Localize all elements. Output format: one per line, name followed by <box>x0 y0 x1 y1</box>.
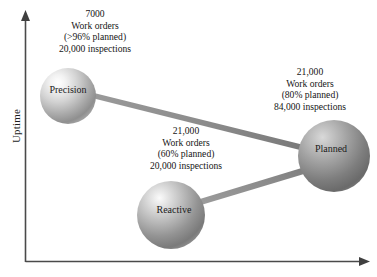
bubble-label-reactive: Reactive <box>143 204 205 216</box>
callout-planned-line-3: (80% planned) <box>246 89 374 101</box>
callout-planned-line-1: 21,000 <box>246 66 374 78</box>
x-axis-arrow-icon <box>359 257 370 266</box>
callout-planned-line-2: Work orders <box>246 78 374 90</box>
bubble-diagram-figure: Uptime 7000 Work orders (>96% planned) 2… <box>0 0 377 277</box>
y-axis-title: Uptime <box>10 96 22 156</box>
bubble-precision[interactable] <box>40 68 96 124</box>
callout-reactive-line-4: 20,000 inspections <box>124 160 248 172</box>
callout-reactive-line-1: 21,000 <box>124 125 248 137</box>
callout-planned: 21,000 Work orders (80% planned) 84,000 … <box>246 66 374 112</box>
bubble-planned[interactable] <box>298 120 370 192</box>
callout-precision-line-2: Work orders <box>33 20 157 32</box>
callout-precision-line-3: (>96% planned) <box>33 31 157 43</box>
callout-precision-line-1: 7000 <box>33 8 157 20</box>
callout-precision-line-4: 20,000 inspections <box>33 43 157 55</box>
callout-precision: 7000 Work orders (>96% planned) 20,000 i… <box>33 8 157 54</box>
callout-planned-line-4: 84,000 inspections <box>246 101 374 113</box>
callout-reactive-line-3: (60% planned) <box>124 148 248 160</box>
bubble-label-precision: Precision <box>40 84 96 96</box>
y-axis-arrow-icon <box>21 10 30 21</box>
callout-reactive-line-2: Work orders <box>124 137 248 149</box>
callout-reactive: 21,000 Work orders (60% planned) 20,000 … <box>124 125 248 171</box>
bubble-label-planned: Planned <box>303 143 359 155</box>
